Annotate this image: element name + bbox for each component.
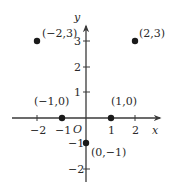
point-neg2-3 [34,38,40,44]
origin-label: O [73,123,82,136]
point-label: (1,0) [111,95,137,108]
point-label: (−1,0) [34,95,69,108]
coordinate-plane: −2 −1 1 2 O 3 2 1 −1 −2 x y (−2,3) (2,3)… [0,0,169,192]
point-label: (0,−1) [91,146,126,159]
y-tick-label: 1 [74,86,81,99]
y-tick-label: 2 [74,61,81,74]
point-label: (2,3) [139,27,165,40]
x-tick-label: 2 [132,124,139,137]
point-0-neg1 [83,140,89,146]
point-2-3 [132,38,138,44]
point-1-0 [108,115,114,121]
point-neg1-0 [59,115,65,121]
y-tick-label: −1 [68,137,84,150]
x-tick-label: −1 [55,124,71,137]
y-axis-label: y [73,11,81,24]
x-tick-label: 1 [108,124,115,137]
x-tick-label: −2 [30,124,46,137]
x-axis-label: x [152,124,159,137]
y-tick-label: −2 [68,163,84,176]
point-label: (−2,3) [42,27,77,40]
